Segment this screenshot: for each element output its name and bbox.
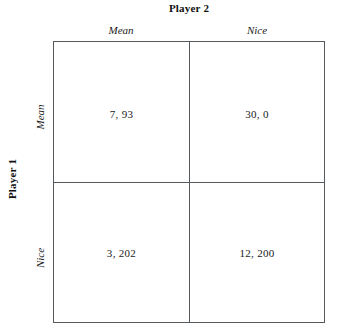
matrix-cell-value: 30, 0 [190, 108, 324, 120]
column-player-title: Player 2 [53, 2, 325, 14]
payoff-matrix: 7, 93 30, 0 3, 202 12, 200 [53, 41, 325, 323]
row-header-mean: Mean [34, 82, 46, 152]
matrix-cell-nice-mean: 3, 202 [54, 183, 189, 322]
matrix-cell-value: 3, 202 [54, 247, 189, 259]
matrix-cell-value: 12, 200 [190, 247, 324, 259]
matrix-cell-nice-nice: 12, 200 [190, 183, 324, 322]
row-player-title: Player 1 [6, 143, 18, 215]
matrix-cell-mean-nice: 30, 0 [190, 42, 324, 182]
matrix-cell-value: 7, 93 [54, 108, 189, 120]
matrix-cell-mean-mean: 7, 93 [54, 42, 189, 182]
row-header-nice: Nice [34, 223, 46, 293]
column-header-mean: Mean [53, 24, 189, 36]
column-header-nice: Nice [189, 24, 325, 36]
